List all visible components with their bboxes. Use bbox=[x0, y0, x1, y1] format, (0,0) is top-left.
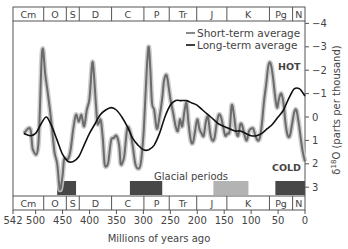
glacial-period-bar bbox=[130, 181, 162, 195]
legend-short-label: Short-term average bbox=[197, 27, 300, 39]
d18o-chart: CmOSDCPTrJKPgN CmOSDCPTrJKPgN −4−3−2−101… bbox=[0, 0, 348, 249]
x-tick-label: 250 bbox=[161, 215, 180, 226]
y-tick-label: 0 bbox=[312, 112, 318, 123]
period-label-n: N bbox=[295, 198, 302, 209]
period-label-c: C bbox=[124, 198, 131, 209]
x-tick-label: 542 bbox=[3, 215, 22, 226]
y-axis-ticks: −4−3−2−10123 bbox=[305, 18, 327, 193]
period-label-k: K bbox=[245, 198, 252, 209]
period-label-pg: Pg bbox=[275, 9, 287, 20]
hot-label: HOT bbox=[278, 61, 301, 72]
x-tick-label: 400 bbox=[80, 215, 99, 226]
y-tick-label: 3 bbox=[312, 182, 318, 193]
x-tick-label: 0 bbox=[302, 215, 308, 226]
glacial-period-bar bbox=[275, 181, 305, 195]
y-tick-label: 1 bbox=[312, 135, 318, 146]
x-axis-label: Millions of years ago bbox=[108, 233, 211, 244]
period-label-tr: Tr bbox=[178, 9, 187, 20]
period-label-d: D bbox=[92, 9, 99, 20]
period-label-cm: Cm bbox=[20, 198, 36, 209]
x-tick-label: 300 bbox=[134, 215, 153, 226]
period-label-s: S bbox=[70, 198, 76, 209]
period-label-j: J bbox=[209, 9, 213, 20]
y-tick-label: −1 bbox=[312, 88, 327, 99]
y-axis-label: δ18O (parts per thousand) bbox=[330, 45, 342, 174]
geologic-period-bar-bottom: CmOSDCPTrJKPgN bbox=[13, 196, 305, 210]
x-tick-label: 100 bbox=[242, 215, 261, 226]
x-tick-label: 200 bbox=[188, 215, 207, 226]
period-label-o: O bbox=[51, 198, 58, 209]
glacial-period-bars bbox=[57, 181, 305, 195]
cold-label: COLD bbox=[272, 162, 301, 173]
period-label-k: K bbox=[245, 9, 252, 20]
glacial-period-bar bbox=[213, 181, 248, 195]
glacial-periods-label: Glacial periods bbox=[154, 171, 228, 182]
period-label-cm: Cm bbox=[20, 9, 36, 20]
legend-long-label: Long-term average bbox=[197, 39, 297, 51]
period-label-pg: Pg bbox=[275, 198, 287, 209]
x-tick-label: 450 bbox=[53, 215, 72, 226]
x-axis-ticks: 542500450400350300250200150100500 bbox=[3, 210, 308, 226]
y-tick-label: −2 bbox=[312, 65, 327, 76]
period-label-p: P bbox=[154, 198, 160, 209]
period-label-tr: Tr bbox=[178, 198, 187, 209]
period-label-o: O bbox=[51, 9, 58, 20]
y-tick-label: 2 bbox=[312, 158, 318, 169]
period-label-p: P bbox=[154, 9, 160, 20]
x-tick-label: 500 bbox=[26, 215, 45, 226]
legend: Short-term average Long-term average bbox=[186, 27, 300, 51]
period-label-c: C bbox=[124, 9, 131, 20]
y-tick-label: −3 bbox=[312, 41, 327, 52]
x-tick-label: 350 bbox=[107, 215, 126, 226]
period-label-d: D bbox=[92, 198, 99, 209]
geologic-period-bar-top: CmOSDCPTrJKPgN bbox=[13, 7, 305, 21]
x-tick-label: 50 bbox=[272, 215, 285, 226]
y-tick-label: −4 bbox=[312, 18, 327, 29]
period-label-s: S bbox=[70, 9, 76, 20]
period-label-j: J bbox=[209, 198, 213, 209]
period-label-n: N bbox=[295, 9, 302, 20]
x-tick-label: 150 bbox=[215, 215, 234, 226]
